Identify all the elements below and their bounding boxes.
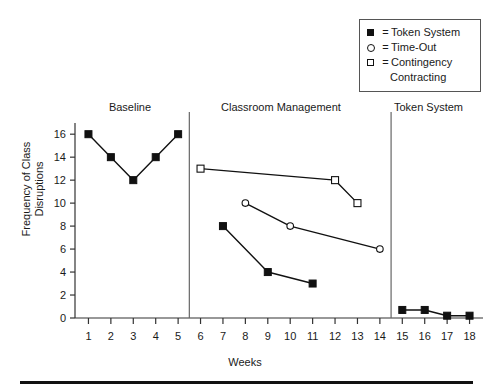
series-line-contingency-contracting [201,169,358,203]
data-point-filled-square [107,154,114,161]
chart-plot-area: 1614121086420123456789101112131415161718 [0,0,493,389]
data-point-filled-square [130,177,137,184]
x-axis-tick-label: 3 [130,330,136,342]
data-point-filled-square [175,131,182,138]
data-point-open-circle [287,223,294,230]
series-line-token-system [88,134,178,180]
data-point-open-square [354,200,361,207]
y-axis-tick-label: 16 [54,128,66,140]
y-axis-tick-label: 14 [54,151,66,163]
y-axis-tick-label: 8 [60,220,66,232]
x-axis-tick-label: 10 [284,330,296,342]
x-axis-tick-label: 16 [419,330,431,342]
x-axis-tick-label: 12 [329,330,341,342]
x-axis-tick-label: 5 [175,330,181,342]
data-point-filled-square [466,312,473,319]
x-axis-tick-label: 1 [85,330,91,342]
data-point-filled-square [264,269,271,276]
x-axis-tick-label: 4 [153,330,159,342]
chart-figure: = Token System = Time-Out = Contingency … [0,0,493,389]
y-axis-tick-label: 0 [60,312,66,324]
x-axis-tick-label: 8 [242,330,248,342]
x-axis-tick-label: 11 [307,330,318,342]
y-axis-tick-label: 4 [60,266,66,278]
x-axis-tick-label: 15 [396,330,408,342]
y-axis-tick-label: 2 [60,289,66,301]
y-axis-tick-label: 6 [60,243,66,255]
data-point-filled-square [421,306,428,313]
figure-bottom-rule [20,381,473,384]
series-line-time-out [245,203,380,249]
data-point-filled-square [85,131,92,138]
data-point-open-square [332,177,339,184]
y-axis-tick-label: 12 [54,174,66,186]
data-point-open-circle [242,200,249,207]
data-point-filled-square [399,306,406,313]
y-axis-tick-label: 10 [54,197,66,209]
data-point-open-circle [377,246,384,253]
x-axis-tick-label: 13 [351,330,363,342]
data-point-filled-square [152,154,159,161]
x-axis-tick-label: 6 [197,330,203,342]
x-axis-tick-label: 9 [265,330,271,342]
x-axis-tick-label: 18 [463,330,475,342]
data-point-filled-square [444,312,451,319]
data-point-filled-square [219,223,226,230]
x-axis-tick-label: 7 [220,330,226,342]
x-axis-title: Weeks [190,356,300,368]
series-line-token-system [402,310,469,316]
x-axis-tick-label: 14 [374,330,386,342]
x-axis-tick-label: 17 [441,330,453,342]
data-point-open-square [197,165,204,172]
data-point-filled-square [309,280,316,287]
x-axis-tick-label: 2 [108,330,114,342]
y-axis-title: Frequency of Class Disruptions [20,109,46,269]
